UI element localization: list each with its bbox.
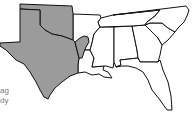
legend-fragment-2: dy xyxy=(0,96,8,105)
state-florida xyxy=(116,58,172,110)
legend-fragment-1: ag xyxy=(0,86,9,95)
southern-us-map xyxy=(0,0,194,117)
